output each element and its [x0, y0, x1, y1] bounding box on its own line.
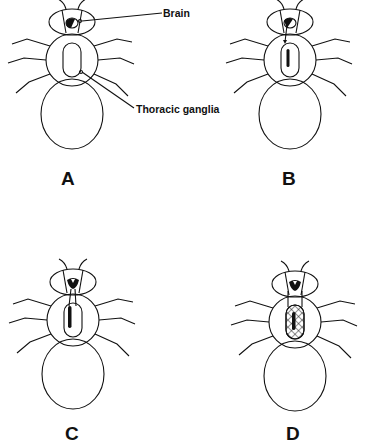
- axon-line: [285, 25, 287, 42]
- panel-label-b: B: [282, 168, 296, 189]
- panel-label-a: A: [61, 168, 75, 189]
- panel-b: [226, 0, 352, 149]
- brain-icon: [67, 278, 79, 289]
- panel-d: [231, 261, 357, 411]
- brain-callout-line: [82, 13, 162, 21]
- panel-a: [8, 0, 134, 149]
- brain-icon: [289, 280, 301, 291]
- panel-label-c: C: [65, 423, 79, 444]
- brain-icon: [66, 18, 78, 28]
- brain-callout-label: Brain: [163, 7, 190, 19]
- panel-c: [9, 259, 135, 409]
- brain-icon: [284, 18, 296, 28]
- thoracic-callout-label: Thoracic ganglia: [136, 103, 220, 115]
- insect-diagram: Brain Thoracic ganglia A B C: [0, 0, 368, 448]
- thoracic-callout-line: [82, 72, 134, 108]
- panel-label-d: D: [286, 423, 300, 444]
